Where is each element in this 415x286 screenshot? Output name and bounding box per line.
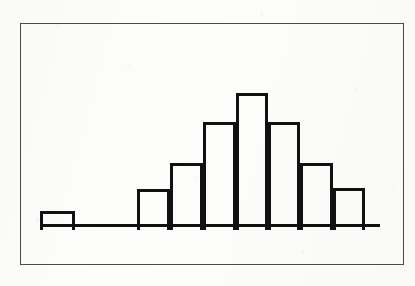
bar-3 xyxy=(203,122,236,230)
scanned-figure-page xyxy=(0,0,415,286)
histogram-plot-area xyxy=(0,0,415,286)
bar-6 xyxy=(300,163,333,230)
bar-1 xyxy=(137,189,170,230)
bar-outlier-left xyxy=(40,211,75,230)
bar-7 xyxy=(333,188,365,230)
bar-4-peak xyxy=(236,93,268,230)
bar-2 xyxy=(170,163,203,230)
bar-5 xyxy=(268,122,300,230)
